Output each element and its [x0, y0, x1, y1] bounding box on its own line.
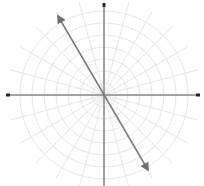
polar-grid-diagram	[0, 0, 204, 186]
grid-spoke	[56, 95, 104, 179]
grid-spoke	[104, 11, 152, 95]
grid-spoke	[104, 95, 129, 186]
grid-spoke	[11, 70, 104, 95]
grid-spoke	[104, 70, 197, 95]
grid-spoke	[20, 47, 104, 95]
grid-spoke	[79, 95, 104, 186]
grid-spoke	[11, 95, 104, 120]
grid-spoke	[79, 2, 104, 95]
grid-spoke	[104, 95, 197, 120]
grid-spoke	[104, 47, 188, 95]
grid-spoke	[104, 95, 188, 143]
grid-spoke	[104, 2, 129, 95]
vector-arrow	[58, 16, 148, 170]
grid-spoke	[20, 95, 104, 143]
